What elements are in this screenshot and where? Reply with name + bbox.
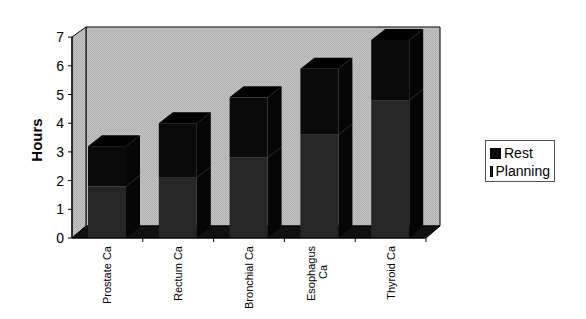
y-tick-label: 6	[56, 58, 64, 74]
y-ticks: 01234567	[56, 29, 72, 246]
y-tick-label: 0	[56, 230, 64, 246]
legend-label-rest: Rest	[504, 145, 533, 161]
x-categories: Prostate CaRectum CaBronchial CaEsophagu…	[101, 238, 426, 309]
side-wall	[72, 27, 86, 238]
legend-item-rest: Rest	[490, 144, 550, 162]
bar-1	[159, 112, 211, 238]
x-category-label: Ca	[317, 264, 329, 279]
x-category-label: Esophagus	[305, 246, 317, 302]
y-axis-label: Hours	[28, 118, 45, 161]
bar-4	[371, 29, 423, 238]
y-tick-label: 4	[56, 115, 64, 131]
bar-3	[300, 58, 352, 238]
legend-item-planning: Planning	[490, 162, 550, 180]
legend-swatch-planning	[490, 166, 493, 177]
x-category-label: Bronchial Ca	[243, 245, 255, 309]
legend: Rest Planning	[485, 140, 555, 182]
y-tick-label: 1	[56, 201, 64, 217]
bar-2	[230, 86, 282, 238]
legend-label-planning: Planning	[496, 163, 551, 179]
bar-0	[88, 135, 140, 238]
x-category-label: Rectum Ca	[172, 245, 184, 301]
legend-swatch-rest	[490, 148, 501, 159]
y-tick-label: 3	[56, 144, 64, 160]
y-tick-label: 5	[56, 87, 64, 103]
y-tick-label: 7	[56, 29, 64, 45]
y-tick-label: 2	[56, 173, 64, 189]
x-category-label: Thyroid Ca	[385, 245, 397, 300]
x-category-label: Prostate Ca	[101, 245, 113, 304]
